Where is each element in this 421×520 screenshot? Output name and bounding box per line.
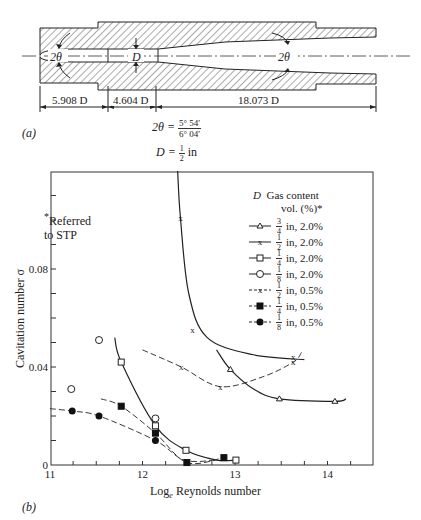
legend-item: 18in, 2.0% bbox=[247, 266, 323, 282]
legend-label: in, 2.0% bbox=[286, 220, 323, 232]
legend-item: x12in, 0.5% bbox=[247, 282, 323, 298]
x-tick-label: 14 bbox=[322, 468, 334, 480]
venturi-diagram: 2θ D 2θ 5.908 D 4.604 D 18.073 D bbox=[0, 0, 421, 170]
formula-theta: 2θ = 5° 54′ 6° 04′ bbox=[152, 118, 201, 139]
svg-text:x: x bbox=[258, 237, 263, 247]
legend-item: 14in, 0.5% bbox=[247, 298, 323, 314]
series-curve bbox=[217, 350, 347, 401]
svg-text:x: x bbox=[178, 213, 183, 223]
legend-label: in, 2.0% bbox=[286, 236, 323, 248]
y-axis-label: Cavitation number σ bbox=[13, 268, 27, 368]
legend-label: in, 0.5% bbox=[286, 316, 323, 328]
svg-text:x: x bbox=[179, 362, 184, 372]
legend-item: 14in, 2.0% bbox=[247, 250, 323, 266]
angle-label-right: 2θ bbox=[278, 50, 290, 64]
svg-text:x: x bbox=[218, 382, 223, 392]
legend: 34in, 2.0%x12in, 2.0%14in, 2.0%18in, 2.0… bbox=[247, 218, 323, 330]
circle-filled-marker-icon bbox=[247, 316, 273, 328]
legend-label: in, 2.0% bbox=[286, 252, 323, 264]
plot-frame bbox=[51, 172, 373, 465]
angle-label-left: 2θ bbox=[50, 50, 62, 64]
square-filled-marker-icon bbox=[247, 300, 273, 312]
lower-wall bbox=[40, 57, 376, 90]
stp-note: *Referred to STP bbox=[44, 210, 91, 242]
y-tick-label: 0.08 bbox=[29, 263, 49, 275]
x-axis-label: Loge Reynolds number bbox=[150, 484, 261, 500]
x-marker-icon: x bbox=[247, 284, 273, 296]
formula-diameter: D = 1 2 in bbox=[156, 144, 197, 163]
svg-text:x: x bbox=[190, 325, 195, 335]
triangle-open-marker-icon bbox=[247, 220, 273, 232]
legend-item: x12in, 2.0% bbox=[247, 234, 323, 250]
y-tick-label: 0.04 bbox=[29, 361, 49, 373]
svg-text:x: x bbox=[291, 357, 296, 367]
x-marker-icon: x bbox=[247, 236, 273, 248]
square-open-marker-icon bbox=[247, 252, 273, 264]
circle-open-marker-icon bbox=[247, 268, 273, 280]
dimension-throat: 4.604 D bbox=[113, 94, 149, 106]
upper-wall bbox=[40, 22, 376, 55]
throat-label: D bbox=[131, 50, 141, 64]
legend-label: in, 0.5% bbox=[286, 284, 323, 296]
legend-item: 34in, 2.0% bbox=[247, 218, 323, 234]
legend-label: in, 0.5% bbox=[286, 300, 323, 312]
legend-label: in, 2.0% bbox=[286, 268, 323, 280]
legend-item: 18in, 0.5% bbox=[247, 314, 323, 330]
x-tick-label: 12 bbox=[137, 468, 148, 480]
x-tick-label: 13 bbox=[230, 468, 242, 480]
legend-header: D Gas content vol. (%)* bbox=[253, 189, 323, 215]
series-curve bbox=[115, 338, 236, 461]
dimension-inlet: 5.908 D bbox=[52, 94, 88, 106]
part-a-label: (a) bbox=[22, 126, 36, 141]
svg-text:x: x bbox=[258, 285, 263, 295]
y-tick-label: 0 bbox=[43, 459, 49, 471]
dimension-diffuser: 18.073 D bbox=[238, 94, 279, 106]
part-b-label: (b) bbox=[22, 500, 36, 515]
